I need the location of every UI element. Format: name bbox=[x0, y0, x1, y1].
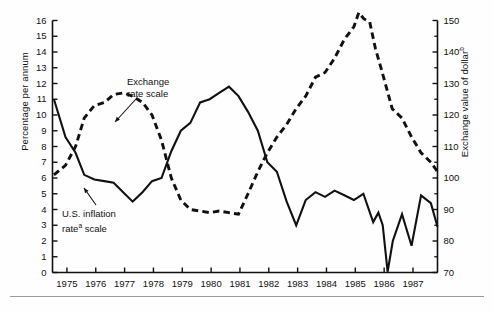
series-us-inflation-rate bbox=[54, 87, 438, 272]
y-axis-right-tick-label: 150 bbox=[444, 15, 474, 26]
y-axis-left-tick-label: 4 bbox=[17, 204, 47, 215]
y-axis-left-tick-label: 11 bbox=[17, 93, 47, 104]
figure-chart: Percentage per annum Exchange value of d… bbox=[0, 0, 494, 312]
y-axis-left-tick-label: 7 bbox=[17, 156, 47, 167]
series-exchange-rate bbox=[54, 13, 438, 215]
exchange-rate-annotation: Exchange rate scale bbox=[127, 76, 169, 99]
y-axis-left-tick-label: 15 bbox=[17, 30, 47, 41]
y-axis-left-tick-label: 14 bbox=[17, 46, 47, 57]
y-axis-right-tick-label: 140 bbox=[444, 46, 474, 57]
exchange-rate-annotation-line2: rate scale bbox=[127, 88, 169, 100]
axis-ticks bbox=[53, 21, 438, 273]
annotation-arrows bbox=[84, 99, 136, 205]
y-axis-right-tick-label: 70 bbox=[444, 267, 474, 278]
us-inflation-annotation-line2: ratea scale bbox=[62, 220, 116, 235]
us-inflation-annotation: U.S. inflation ratea scale bbox=[62, 208, 116, 234]
y-axis-left-tick-label: 1 bbox=[17, 251, 47, 262]
x-axis-tick-label: 1981 bbox=[224, 278, 256, 289]
us-inflation-annotation-line2-pre: rate bbox=[62, 223, 78, 234]
x-axis-tick-label: 1978 bbox=[137, 278, 169, 289]
x-axis-tick-label: 1984 bbox=[310, 278, 342, 289]
y-axis-right-tick-label: 80 bbox=[444, 235, 474, 246]
x-axis-tick-label: 1982 bbox=[253, 278, 285, 289]
x-axis-tick-label: 1976 bbox=[80, 278, 112, 289]
us-inflation-annotation-line2-post: scale bbox=[82, 223, 107, 234]
y-axis-left-tick-label: 8 bbox=[17, 141, 47, 152]
y-axis-right-tick-label: 120 bbox=[444, 109, 474, 120]
y-axis-left-tick-label: 13 bbox=[17, 62, 47, 73]
x-axis-tick-label: 1986 bbox=[368, 278, 400, 289]
x-axis-tick-label: 1985 bbox=[339, 278, 371, 289]
x-axis-tick-label: 1987 bbox=[397, 278, 429, 289]
y-axis-left-tick-label: 3 bbox=[17, 219, 47, 230]
y-axis-left-tick-label: 6 bbox=[17, 172, 47, 183]
y-axis-right-tick-label: 110 bbox=[444, 141, 474, 152]
us-inflation-annotation-line1: U.S. inflation bbox=[62, 208, 116, 220]
axis-frame bbox=[53, 21, 438, 273]
y-axis-left-tick-label: 10 bbox=[17, 109, 47, 120]
plot-canvas bbox=[0, 0, 494, 312]
x-axis-tick-label: 1975 bbox=[51, 278, 83, 289]
y-axis-left-tick-label: 0 bbox=[17, 267, 47, 278]
y-axis-left-tick-label: 16 bbox=[17, 15, 47, 26]
y-axis-right-tick-label: 130 bbox=[444, 78, 474, 89]
y-axis-left-tick-label: 2 bbox=[17, 235, 47, 246]
x-axis-tick-label: 1977 bbox=[109, 278, 141, 289]
y-axis-right-tick-label: 90 bbox=[444, 204, 474, 215]
y-axis-left-tick-label: 5 bbox=[17, 188, 47, 199]
x-axis-tick-label: 1979 bbox=[166, 278, 198, 289]
x-axis-tick-label: 1983 bbox=[282, 278, 314, 289]
y-axis-left-tick-label: 12 bbox=[17, 78, 47, 89]
y-axis-right-tick-label: 100 bbox=[444, 172, 474, 183]
footer-rule bbox=[10, 296, 484, 297]
exchange-rate-annotation-line1: Exchange bbox=[127, 76, 169, 88]
us-inflation-leader-arrow-head bbox=[84, 188, 89, 193]
x-axis-tick-label: 1980 bbox=[195, 278, 227, 289]
y-axis-left-tick-label: 9 bbox=[17, 125, 47, 136]
